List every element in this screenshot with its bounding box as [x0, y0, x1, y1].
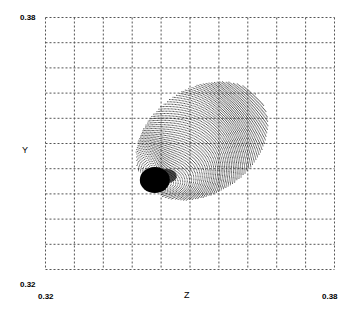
point-cloud	[136, 82, 269, 200]
plot-area	[45, 17, 335, 270]
x-tick-min: 0.32	[38, 292, 54, 301]
x-tick-max: 0.38	[322, 292, 338, 301]
grid-lines	[46, 18, 335, 270]
y-tick-max: 0.38	[20, 13, 36, 22]
y-tick-min: 0.32	[20, 280, 36, 289]
y-axis-title: Y	[22, 145, 28, 155]
x-axis-title: Z	[184, 290, 190, 300]
